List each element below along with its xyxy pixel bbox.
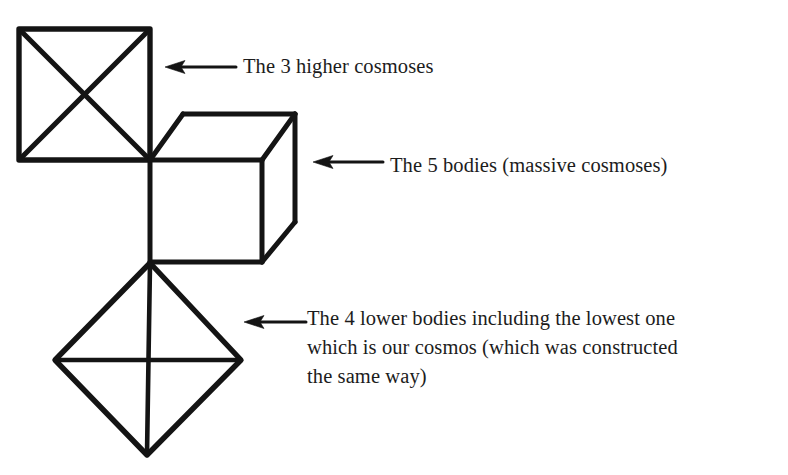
square-with-diagonals-shape (19, 29, 150, 160)
arrow-to-square (165, 61, 236, 74)
label-five-bodies: The 5 bodies (massive cosmoses) (390, 152, 668, 179)
cube-receding-edge-top-right (262, 114, 295, 160)
cube-receding-edge-bottom-right (262, 222, 295, 262)
label-four-lower-bodies-line-3: the same way) (307, 362, 777, 391)
label-four-lower-bodies: The 4 lower bodies including the lowest … (307, 304, 777, 391)
diagram-page: The 3 higher cosmoses The 5 bodies (mass… (0, 0, 788, 475)
arrow-group (165, 61, 383, 329)
cube-shape (150, 114, 295, 262)
label-four-lower-bodies-line-2: which is our cosmos (which was construct… (307, 333, 777, 362)
cube-receding-edge-top-left (150, 114, 183, 160)
arrow-to-cube (313, 156, 383, 169)
diamond-shape (55, 263, 241, 455)
arrow-to-diamond (244, 316, 306, 329)
label-three-higher-cosmoses: The 3 higher cosmoses (243, 53, 434, 80)
label-four-lower-bodies-line-1: The 4 lower bodies including the lowest … (307, 304, 777, 333)
